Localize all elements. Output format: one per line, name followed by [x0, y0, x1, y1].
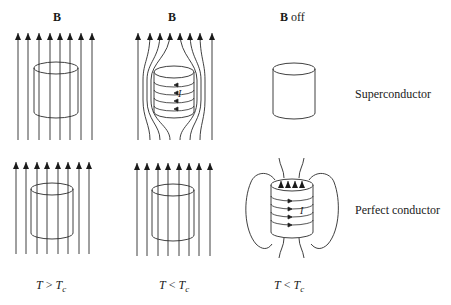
cylinder-superconductor-off [273, 63, 315, 119]
cylinder-normal-top [34, 62, 78, 118]
temp-label-col3: T < Tc [274, 278, 304, 294]
diagram-canvas [0, 0, 451, 305]
temp-op: > [43, 278, 56, 292]
field-label-col1: B [53, 10, 61, 25]
field-off-symbol: B [280, 10, 288, 24]
cylinder-perfect-conductor-off [271, 179, 313, 238]
field-label-col2: B [168, 10, 176, 25]
temp-var: T [274, 278, 281, 292]
field-lines-normal-bottom [16, 162, 89, 254]
temp-label-col1: T > Tc [36, 278, 66, 294]
temp-sub: c [300, 284, 304, 294]
cylinder-superconductor-field [154, 66, 194, 118]
temp-sub: c [185, 284, 189, 294]
field-off-label: B off [280, 10, 305, 25]
field-lines-perfect-conductor [137, 163, 210, 256]
row-label-perfect-conductor: Perfect conductor [355, 203, 440, 218]
temp-op: < [166, 278, 179, 292]
current-label-superconductor: I [178, 88, 181, 99]
current-label-perfect-conductor: I [300, 205, 303, 216]
temp-op: < [281, 278, 294, 292]
temp-label-col2: T < Tc [159, 278, 189, 294]
temp-sub: c [62, 284, 66, 294]
temp-var: T [159, 278, 166, 292]
temp-var: T [36, 278, 43, 292]
row-label-superconductor: Superconductor [355, 87, 431, 102]
field-lines-normal-top [18, 33, 92, 140]
field-off-text: off [288, 10, 305, 24]
